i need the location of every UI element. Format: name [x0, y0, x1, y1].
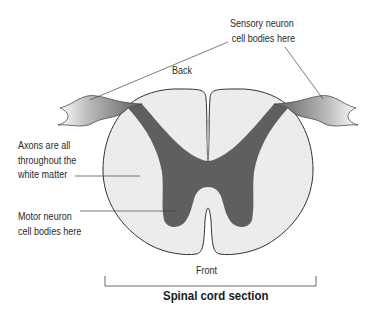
sensory-leader-right [285, 47, 323, 99]
section-bracket [105, 276, 316, 286]
front-label: Front [196, 263, 217, 278]
sensory-neuron-label: Sensory neuron cell bodies here [230, 16, 295, 45]
central-canal [207, 120, 209, 162]
axons-label: Axons are all throughout the white matte… [18, 138, 76, 182]
diagram-title: Spinal cord section [163, 289, 269, 304]
motor-neuron-label: Motor neuron cell bodies here [18, 209, 81, 238]
back-label: Back [172, 63, 192, 78]
